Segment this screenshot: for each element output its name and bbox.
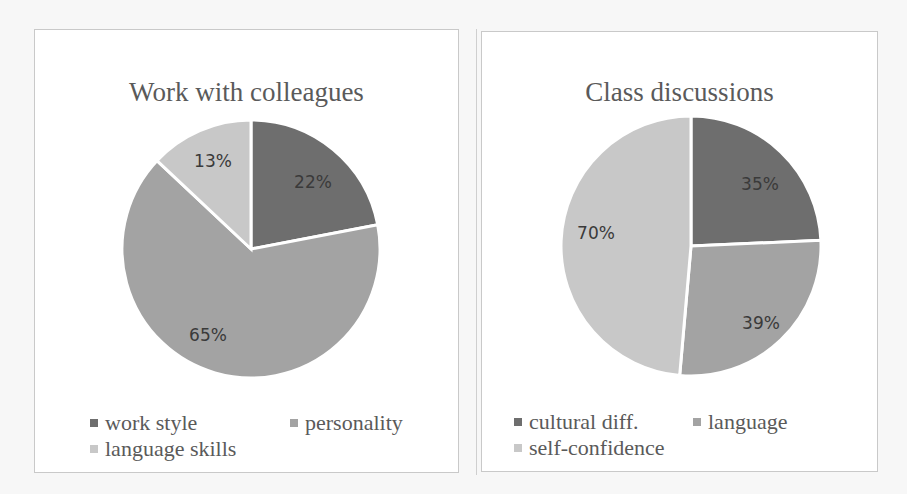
legend-item-language-skills: language skills: [90, 436, 236, 462]
legend-label: personality: [305, 410, 403, 435]
pie-chart: 35%39%70%: [482, 32, 877, 471]
data-label: 35%: [741, 174, 779, 194]
legend-item-language: language: [693, 409, 787, 435]
legend-swatch-icon: [90, 419, 98, 427]
pie-chart: 22%65%13%: [35, 30, 458, 472]
chart-work-with-colleagues: Work with colleagues 22%65%13% work styl…: [34, 29, 459, 473]
data-label: 39%: [742, 313, 780, 333]
legend-item-work-style: work style: [90, 410, 197, 436]
legend-label: work style: [105, 410, 197, 435]
legend-swatch-icon: [90, 445, 98, 453]
data-label: 13%: [194, 151, 232, 171]
legend-swatch-icon: [514, 444, 522, 452]
data-label: 22%: [294, 172, 332, 192]
legend-item-personality: personality: [290, 410, 403, 436]
legend-label: language: [708, 409, 787, 434]
legend-item-cultural-diff: cultural diff.: [514, 409, 639, 435]
data-label: 70%: [577, 223, 615, 243]
legend-swatch-icon: [514, 418, 522, 426]
pie-slice-language: [680, 240, 821, 376]
chart-class-discussions: Class discussions 35%39%70% cultural dif…: [481, 31, 878, 472]
legend-label: self-confidence: [529, 435, 665, 460]
legend-swatch-icon: [693, 418, 701, 426]
legend-swatch-icon: [290, 419, 298, 427]
legend-label: cultural diff.: [529, 409, 639, 434]
data-label: 65%: [189, 325, 227, 345]
panel-divider: [476, 29, 477, 475]
pie-slice-self-confidence: [561, 116, 691, 376]
legend-label: language skills: [105, 436, 236, 461]
legend-item-self-confidence: self-confidence: [514, 435, 665, 461]
